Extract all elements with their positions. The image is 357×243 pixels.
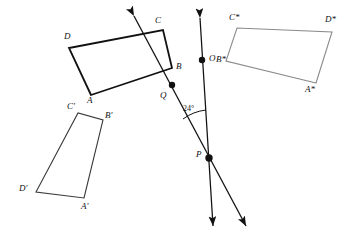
angle-label-24-degrees: 24° xyxy=(183,105,194,113)
diagram-canvas xyxy=(0,0,357,243)
quadrilateral-a-prime-b-prime-c-prime-d-prime xyxy=(36,113,103,198)
point-label-p: P xyxy=(196,150,202,159)
vertex-label-b: B xyxy=(176,62,182,71)
vertex-label-d: D xyxy=(64,32,71,41)
vertex-label-a-star: A* xyxy=(305,85,315,94)
point-q xyxy=(169,82,175,88)
point-p xyxy=(205,154,212,161)
point-label-q: Q xyxy=(160,91,167,100)
lines-group xyxy=(134,16,246,226)
line-through-q-and-p xyxy=(134,16,246,226)
line-through-o-and-p xyxy=(200,18,213,226)
vertex-label-c-star: C* xyxy=(229,13,240,22)
point-o xyxy=(199,57,205,63)
vertex-label-c-prime: C' xyxy=(67,102,75,111)
vertex-label-b-star: B* xyxy=(216,55,226,64)
vertex-label-d-prime: D' xyxy=(19,184,27,193)
vertex-label-b-prime: B' xyxy=(105,111,112,120)
vertex-label-a: A xyxy=(87,96,93,105)
quadrilateral-abcd xyxy=(69,30,172,95)
point-label-o: O xyxy=(209,54,216,63)
quadrilateral-a-star-b-star-c-star-d-star xyxy=(226,28,332,83)
geometry-diagram: A B C D A' B' C' D' A* B* C* D* O Q P 24… xyxy=(0,0,357,243)
vertex-label-c: C xyxy=(155,16,161,25)
vertex-label-a-prime: A' xyxy=(81,202,88,211)
vertex-label-d-star: D* xyxy=(325,15,336,24)
